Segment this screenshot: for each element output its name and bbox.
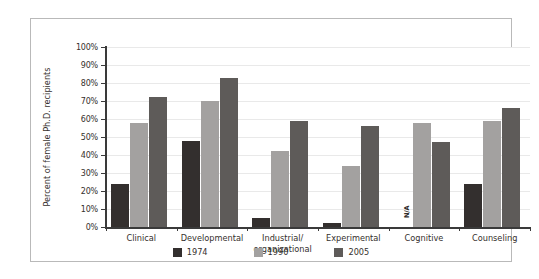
bar-1974 bbox=[464, 184, 482, 227]
x-axis-label-line: Counseling bbox=[449, 233, 539, 244]
y-tick-label: 80% bbox=[81, 79, 98, 88]
bar-2005 bbox=[432, 142, 450, 227]
chart-legend: 197419902005 bbox=[30, 243, 512, 261]
y-tick-label: 30% bbox=[81, 169, 98, 178]
bar-2005 bbox=[220, 78, 238, 227]
bar-1990 bbox=[483, 121, 501, 227]
x-axis-label: Counseling bbox=[449, 233, 539, 244]
bar-group: N/A bbox=[389, 47, 460, 227]
bar-2005 bbox=[149, 97, 167, 227]
plot-area: 100%90%80%70%60%50%40%30%20%10%0% Percen… bbox=[106, 47, 530, 227]
bar-1974 bbox=[111, 184, 129, 227]
y-tick-label: 0% bbox=[86, 223, 98, 232]
y-axis-tick-labels: 100%90%80%70%60%50%40%30%20%10%0% bbox=[64, 47, 98, 227]
y-tick-label: 50% bbox=[81, 133, 98, 142]
y-tick-label: 100% bbox=[76, 43, 98, 52]
legend-swatch bbox=[173, 248, 182, 257]
y-tick-label: 90% bbox=[81, 61, 98, 70]
chart-figure: 100%90%80%70%60%50%40%30%20%10%0% Percen… bbox=[0, 0, 539, 279]
x-tick-mark bbox=[106, 227, 107, 231]
legend-swatch bbox=[254, 248, 263, 257]
na-annotation: N/A bbox=[394, 200, 412, 226]
y-tick-label: 10% bbox=[81, 205, 98, 214]
bar-group bbox=[247, 47, 318, 227]
x-tick-mark bbox=[318, 227, 319, 231]
legend-label: 1990 bbox=[268, 247, 289, 257]
bar-1974 bbox=[252, 218, 270, 227]
bar-1990 bbox=[271, 151, 289, 227]
bar-group bbox=[318, 47, 389, 227]
legend-item-2005: 2005 bbox=[334, 247, 369, 257]
x-tick-mark bbox=[247, 227, 248, 231]
legend-label: 2005 bbox=[348, 247, 369, 257]
y-tick-label: 60% bbox=[81, 115, 98, 124]
bar-1990 bbox=[342, 166, 360, 227]
x-tick-mark bbox=[389, 227, 390, 231]
bar-group bbox=[177, 47, 248, 227]
bar-group bbox=[459, 47, 530, 227]
bar-1990 bbox=[413, 123, 431, 227]
y-axis-title: Percent of female Ph.D. recipients bbox=[40, 47, 54, 227]
x-tick-mark bbox=[530, 227, 531, 231]
bar-2005 bbox=[361, 126, 379, 227]
y-tick-label: 70% bbox=[81, 97, 98, 106]
bar-2005 bbox=[502, 108, 520, 227]
chart-panel: 100%90%80%70%60%50%40%30%20%10%0% Percen… bbox=[30, 18, 512, 262]
na-annotation-text: N/A bbox=[403, 206, 411, 218]
bar-1974 bbox=[182, 141, 200, 227]
legend-label: 1974 bbox=[187, 247, 208, 257]
legend-swatch bbox=[334, 248, 343, 257]
y-tick-label: 40% bbox=[81, 151, 98, 160]
bar-2005 bbox=[290, 121, 308, 227]
x-tick-mark bbox=[177, 227, 178, 231]
x-tick-mark bbox=[459, 227, 460, 231]
bar-1990 bbox=[201, 101, 219, 227]
bar-1990 bbox=[130, 123, 148, 227]
bar-group bbox=[106, 47, 177, 227]
legend-item-1990: 1990 bbox=[254, 247, 289, 257]
legend-item-1974: 1974 bbox=[173, 247, 208, 257]
y-tick-label: 20% bbox=[81, 187, 98, 196]
bar-1974 bbox=[323, 223, 341, 227]
